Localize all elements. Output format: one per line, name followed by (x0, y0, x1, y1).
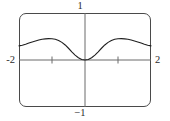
graph-figure: 1 −1 -2 2 (0, 0, 170, 121)
y-axis-min-label: −1 (74, 108, 85, 119)
y-axis-max-label: 1 (77, 1, 82, 12)
x-axis-min-label: -2 (6, 55, 15, 66)
x-axis-max-label: 2 (155, 55, 160, 66)
plot-canvas (19, 13, 151, 107)
